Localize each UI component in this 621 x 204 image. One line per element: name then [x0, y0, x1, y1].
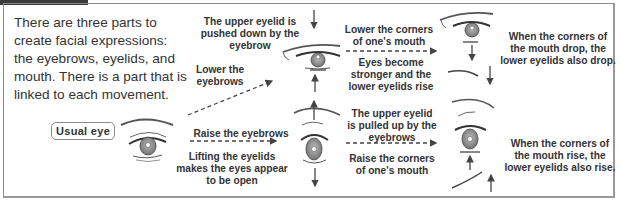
usual-eye-illustration: [121, 120, 173, 162]
mouth-drop-eye: [440, 13, 493, 84]
lowered-eyebrow-eye: [283, 10, 340, 92]
mouth-rise-eye: [452, 100, 494, 192]
arrow-to-lowered: [188, 81, 272, 115]
diagram-artwork: [0, 0, 621, 204]
raised-eyebrow-eye: [294, 101, 340, 186]
